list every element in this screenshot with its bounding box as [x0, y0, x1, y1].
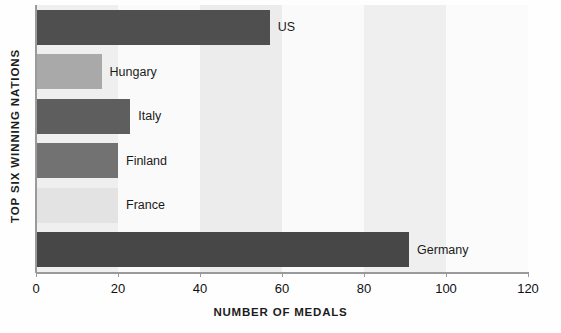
- y-axis-title-text: TOP SIX WINNING NATIONS: [9, 49, 21, 223]
- x-tick: [118, 272, 119, 277]
- x-tick: [528, 272, 529, 277]
- x-tick-label: 60: [275, 281, 289, 296]
- bar-label: Italy: [138, 110, 161, 123]
- x-axis-title: NUMBER OF MEDALS: [0, 306, 561, 318]
- bar-germany[interactable]: [36, 232, 409, 267]
- bar-france[interactable]: [36, 188, 118, 223]
- bar-row: France: [36, 188, 528, 223]
- bar-row: Italy: [36, 99, 528, 134]
- bar-row: Finland: [36, 143, 528, 178]
- bar-row: Germany: [36, 232, 528, 267]
- bar-row: Hungary: [36, 54, 528, 89]
- x-tick-label: 100: [435, 281, 457, 296]
- bar-hungary[interactable]: [36, 54, 102, 89]
- bar-us[interactable]: [36, 10, 270, 45]
- x-tick: [446, 272, 447, 277]
- y-axis-line: [35, 5, 37, 273]
- bar-italy[interactable]: [36, 99, 130, 134]
- bar-finland[interactable]: [36, 143, 118, 178]
- bar-label: Finland: [126, 155, 167, 168]
- bar-label: Germany: [417, 244, 468, 257]
- x-tick-label: 0: [32, 281, 39, 296]
- bar-label: Hungary: [110, 66, 157, 79]
- x-tick: [364, 272, 365, 277]
- x-tick: [282, 272, 283, 277]
- x-tick: [200, 272, 201, 277]
- x-tick: [36, 272, 37, 277]
- x-tick-label: 120: [517, 281, 539, 296]
- plot-area: USHungaryItalyFinlandFranceGermany: [36, 5, 528, 272]
- bar-label: US: [278, 21, 295, 34]
- bar-chart: TOP SIX WINNING NATIONS USHungaryItalyFi…: [0, 0, 561, 333]
- bar-label: France: [126, 199, 165, 212]
- x-tick-label: 80: [357, 281, 371, 296]
- x-tick-label: 20: [111, 281, 125, 296]
- y-axis-title: TOP SIX WINNING NATIONS: [0, 0, 30, 272]
- bar-row: US: [36, 10, 528, 45]
- x-tick-label: 40: [193, 281, 207, 296]
